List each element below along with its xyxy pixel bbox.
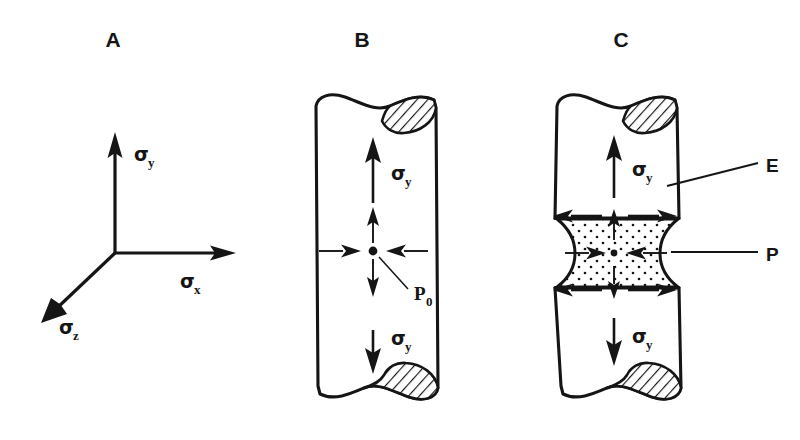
center-point-b: [369, 247, 378, 256]
sigma-y-subscript-bottom-c: y: [646, 337, 653, 352]
sigma-y-symbol-top-b: σ: [391, 162, 406, 184]
plastic-region-label: P: [766, 244, 779, 265]
p-zero-symbol: P: [414, 283, 426, 304]
sigma-y-subscript-bottom-b: y: [405, 339, 412, 354]
sigma-x-subscript: x: [194, 282, 201, 297]
sigma-y-subscript-top-c: y: [646, 170, 653, 185]
sigma-y-subscript-top-b: y: [405, 174, 412, 189]
sigma-y-symbol-top-c: σ: [632, 158, 647, 180]
sigma-y-symbol-bottom-b: σ: [391, 327, 406, 349]
sigma-z-subscript: z: [73, 328, 79, 343]
sigma-z-symbol: σ: [59, 316, 74, 338]
panel-c-letter: C: [613, 28, 628, 51]
panel-a-letter: A: [105, 28, 120, 51]
sigma-x-symbol: σ: [180, 270, 195, 292]
sigma-y-subscript: y: [148, 155, 155, 170]
sigma-y-symbol: σ: [134, 143, 149, 165]
sigma-y-symbol-bottom-c: σ: [632, 325, 647, 347]
stress-state-diagram: A σ y σ x σ z: [0, 0, 800, 440]
center-point-c: [611, 250, 618, 257]
figure-root: A σ y σ x σ z: [0, 0, 800, 440]
p-zero-subscript: 0: [426, 294, 433, 309]
elastic-region-label: E: [766, 155, 779, 176]
panel-b-letter: B: [354, 28, 369, 51]
